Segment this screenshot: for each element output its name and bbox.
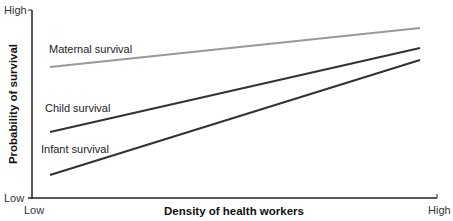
infant-survival-line xyxy=(50,60,420,175)
y-tick-low: Low xyxy=(4,192,24,204)
child-survival-label: Child survival xyxy=(45,102,110,114)
survival-chart: High Low Low High Density of health work… xyxy=(0,0,453,221)
x-tick-low: Low xyxy=(24,204,44,216)
maternal-survival-label: Maternal survival xyxy=(49,43,132,55)
y-tick-high: High xyxy=(4,4,27,16)
x-axis-title: Density of health workers xyxy=(164,205,304,217)
x-tick-high: High xyxy=(428,204,451,216)
infant-survival-label: Infant survival xyxy=(41,143,109,155)
y-axis-title: Probability of survival xyxy=(7,44,19,164)
